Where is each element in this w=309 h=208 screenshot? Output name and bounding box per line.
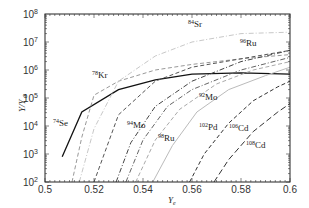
label-106Cd: 106Cd	[229, 123, 249, 133]
label-78Kr: 78Kr	[92, 70, 108, 80]
label-84Sr: 84Sr	[188, 19, 202, 29]
y-tick-label: 107	[23, 36, 38, 48]
y-tick-label: 108	[23, 8, 38, 20]
curve-84Sr	[79, 32, 290, 182]
y-tick-label: 104	[23, 120, 38, 132]
label-108Cd: 108Cd	[246, 140, 266, 150]
label-98Ru: 98Ru	[158, 133, 175, 143]
y-tick-label: 106	[23, 64, 38, 76]
x-axis-label: Ye	[168, 195, 176, 206]
y-axis-label: Y/Y⊙	[17, 93, 28, 112]
x-tick-label: 0.6	[283, 184, 297, 195]
y-tick-label: 103	[23, 148, 38, 160]
abundance-chart: 0.50.520.540.560.580.6 10210310410510610…	[0, 0, 309, 208]
y-tick-label: 102	[23, 176, 38, 188]
curve-labels: 74Se78Kr84Sr96Ru92Mo94Mo98Ru102Pd106Cd10…	[53, 19, 266, 150]
x-tick-label: 0.56	[182, 184, 202, 195]
x-tick-label: 0.5	[38, 184, 52, 195]
label-96Ru: 96Ru	[240, 38, 257, 48]
label-94Mo: 94Mo	[127, 120, 146, 130]
x-tick-label: 0.52	[84, 184, 104, 195]
label-92Mo: 92Mo	[199, 92, 218, 102]
label-102Pd: 102Pd	[199, 122, 218, 132]
curves-group	[62, 32, 290, 182]
label-74Se: 74Se	[53, 118, 68, 128]
x-tick-label: 0.54	[133, 184, 153, 195]
x-tick-labels: 0.50.520.540.560.580.6	[38, 184, 297, 195]
x-tick-label: 0.58	[231, 184, 251, 195]
curve-102Pd	[153, 67, 290, 182]
curve-92Mo	[116, 50, 290, 182]
